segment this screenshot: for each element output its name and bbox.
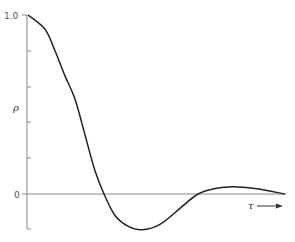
y-axis	[22, 15, 31, 229]
y-axis-label: ρ	[12, 102, 19, 113]
y-tick-label-top: 1.0	[4, 11, 19, 21]
x-axis-annotation: τ	[248, 200, 283, 211]
autocorrelation-chart: 1.0 0 ρ τ	[0, 0, 295, 242]
correlation-curve	[28, 15, 285, 230]
x-axis-label: τ	[248, 200, 254, 211]
y-tick-label-zero: 0	[14, 190, 20, 200]
arrow-right-icon	[276, 204, 283, 209]
